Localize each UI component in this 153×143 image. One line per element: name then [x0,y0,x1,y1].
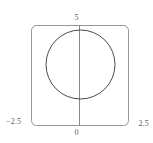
y-max-tick-label: 5 [0,13,153,22]
circle-curve [46,30,115,99]
x-min-tick-label: −2.5 [6,117,21,126]
plot-figure: 5 0 −2.5 2.5 [0,0,153,143]
x-zero-tick-label: 0 [0,128,153,137]
plot-frame [32,26,129,126]
x-max-tick-label: 2.5 [138,119,149,128]
